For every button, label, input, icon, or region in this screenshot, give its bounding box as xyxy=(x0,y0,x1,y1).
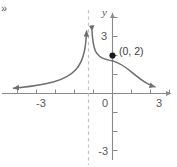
x-tick-label-3: 3 xyxy=(156,97,162,109)
x-tick-label-0: 0 xyxy=(102,97,108,109)
y-tick-label-3: 3 xyxy=(101,30,107,42)
point-label-0-2: (0, 2) xyxy=(119,45,144,57)
curve-left-branch-tail xyxy=(14,88,21,89)
corner-mark: » xyxy=(1,2,7,14)
graph-figure: » xyxy=(0,0,177,167)
x-axis-ticks xyxy=(18,90,170,94)
y-axis-label: y xyxy=(101,6,107,18)
curve-group xyxy=(14,31,156,88)
y-tick-label-neg3: -3 xyxy=(98,145,108,157)
curve-right-branch-lower xyxy=(113,61,155,87)
coordinate-plane-svg: » xyxy=(0,0,177,167)
x-tick-label-neg3: -3 xyxy=(36,97,46,109)
annotation-point-0-2: (0, 2) xyxy=(109,45,143,59)
y-axis-ticks xyxy=(113,18,118,151)
curve-left-branch xyxy=(21,31,87,88)
point-marker-0-2 xyxy=(109,52,115,58)
